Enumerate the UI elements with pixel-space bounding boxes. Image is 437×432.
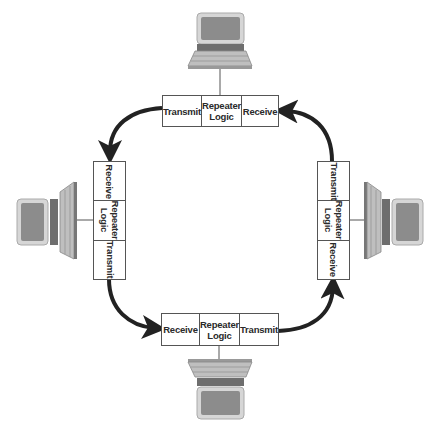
curved-arrow-icon-right-to-top: [286, 111, 332, 161]
computer-icon-bottom: [188, 359, 252, 419]
repeater-logic-cell: Repeater Logic: [200, 314, 240, 345]
transmit-cell: Transmit: [94, 241, 125, 279]
transmit-cell: Transmit: [240, 314, 278, 345]
receive-cell: Receive: [94, 162, 125, 201]
cell-label: Repeater Logic: [323, 201, 345, 240]
cell-label: Receive: [243, 106, 278, 117]
repeater-box-bottom: Receive Repeater Logic Transmit: [161, 313, 279, 346]
repeater-box-left: Receive Repeater Logic Transmit: [93, 161, 126, 280]
cell-label: Transmit: [240, 324, 278, 335]
computer-icon-top: [188, 13, 252, 69]
receive-cell: Receive: [318, 241, 349, 279]
diagram-graphics: [0, 0, 437, 432]
cell-label: Repeater Logic: [99, 201, 121, 240]
cell-label: Repeater Logic: [200, 319, 239, 341]
repeater-logic-cell: Repeater Logic: [202, 96, 242, 126]
curved-arrow-icon-left-to-bottom: [109, 279, 154, 328]
repeater-logic-cell: Repeater Logic: [318, 201, 349, 240]
repeater-box-top: Transmit Repeater Logic Receive: [162, 95, 279, 127]
curved-arrow-icon-bottom-to-right: [278, 287, 333, 331]
cell-label: Repeater Logic: [202, 100, 241, 122]
cell-label: Transmit: [328, 162, 339, 200]
computer-icon-left: [17, 182, 77, 259]
repeater-logic-cell: Repeater Logic: [94, 201, 125, 240]
computer-icon-right: [364, 182, 423, 259]
receive-cell: Receive: [162, 314, 200, 345]
curved-arrow-icon-top-to-left: [110, 108, 162, 152]
receive-cell: Receive: [242, 96, 278, 126]
cell-label: Receive: [163, 324, 198, 335]
cell-label: Receive: [328, 243, 339, 278]
transmit-cell: Transmit: [318, 162, 349, 201]
cell-label: Transmit: [163, 106, 201, 117]
repeater-box-right: Transmit Repeater Logic Receive: [317, 161, 350, 280]
transmit-cell: Transmit: [163, 96, 202, 126]
token-ring-diagram: Transmit Repeater Logic Receive Receive …: [0, 0, 437, 432]
cell-label: Receive: [104, 164, 115, 199]
cell-label: Transmit: [104, 241, 115, 279]
